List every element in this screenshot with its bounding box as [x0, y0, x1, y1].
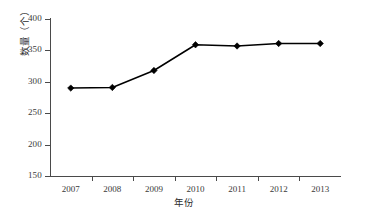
- y-tick-mark: [45, 145, 50, 146]
- x-tick-label: 2010: [173, 184, 219, 194]
- x-axis-line: [50, 176, 341, 177]
- data-point-marker: [68, 85, 74, 91]
- x-tick-label: 2009: [131, 184, 177, 194]
- x-tick-mark: [92, 176, 93, 181]
- x-tick-label: 2007: [48, 184, 94, 194]
- line-chart: 400350300250200150 200720082009201020112…: [0, 0, 368, 211]
- y-tick-label: 250: [28, 107, 42, 117]
- data-point-marker: [109, 84, 115, 90]
- data-point-marker: [192, 42, 198, 48]
- y-tick-label: 200: [28, 139, 42, 149]
- y-tick-label: 150: [28, 170, 42, 180]
- data-point-marker: [275, 40, 281, 46]
- data-point-marker: [317, 40, 323, 46]
- y-tick-mark: [45, 19, 50, 20]
- x-tick-label: 2012: [256, 184, 302, 194]
- x-tick-mark: [299, 176, 300, 181]
- x-axis-title: 年份: [0, 195, 368, 209]
- x-tick-mark: [133, 176, 134, 181]
- x-tick-label: 2013: [297, 184, 343, 194]
- series-line: [71, 43, 320, 88]
- y-tick-label: 300: [28, 76, 42, 86]
- x-tick-mark: [216, 176, 217, 181]
- data-point-marker: [151, 67, 157, 73]
- y-tick-mark: [45, 50, 50, 51]
- y-axis-title: 数量（个）: [17, 0, 31, 62]
- y-tick-mark: [45, 82, 50, 83]
- x-tick-label: 2011: [214, 184, 260, 194]
- x-tick-mark: [175, 176, 176, 181]
- series-layer: [0, 0, 368, 211]
- data-point-marker: [234, 43, 240, 49]
- y-tick-mark: [45, 176, 50, 177]
- x-tick-mark: [258, 176, 259, 181]
- y-tick-mark: [45, 113, 50, 114]
- y-axis-line: [50, 18, 51, 177]
- x-tick-label: 2008: [89, 184, 135, 194]
